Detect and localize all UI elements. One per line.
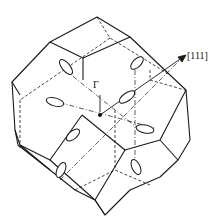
ellipsoid-upper-left [57, 58, 75, 77]
ellipsoid-lower-right [129, 158, 143, 176]
front-edges-right-lower [160, 140, 178, 160]
gamma-point [98, 113, 101, 116]
front-edges-bottom [95, 200, 105, 215]
ellipsoid-inner-right [117, 89, 136, 106]
gamma-label: Γ [93, 79, 99, 90]
front-edges-square [50, 115, 125, 200]
ellipsoid-right [135, 123, 154, 134]
front-edges-top [50, 37, 130, 58]
brillouin-zone-figure: [111] Γ [0, 0, 221, 216]
front-edges-right [125, 90, 186, 150]
ellipsoid-lower-left [54, 161, 68, 179]
ellipsoid-left [45, 96, 64, 108]
ellipsoid-inner-left [64, 127, 81, 143]
axis-b [50, 100, 155, 128]
ellipsoid-upper-right [129, 55, 146, 72]
direction-label: [111] [187, 50, 208, 61]
brillouin-zone-diagram [0, 0, 221, 216]
direction-arrowhead-icon [178, 55, 186, 62]
